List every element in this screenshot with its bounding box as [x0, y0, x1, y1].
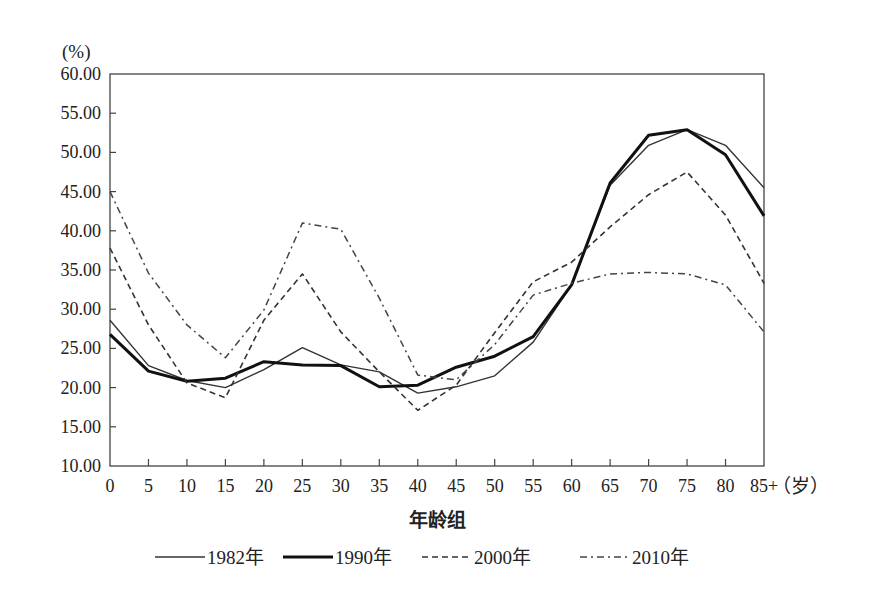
y-tick-label: 40.00 — [61, 221, 102, 241]
y-tick-label: 60.00 — [61, 64, 102, 84]
y-tick-label: 20.00 — [61, 378, 102, 398]
x-tick-label: 25 — [293, 476, 311, 496]
x-axis-unit: （岁） — [772, 476, 829, 497]
legend-label: 2010年 — [632, 547, 689, 568]
y-axis-unit: (%) — [62, 41, 90, 63]
y-tick-label: 10.00 — [61, 456, 102, 476]
x-tick-label: 35 — [370, 476, 388, 496]
x-tick-label: 75 — [678, 476, 696, 496]
legend-label: 2000年 — [474, 547, 531, 568]
x-tick-label: 70 — [640, 476, 658, 496]
x-tick-label: 60 — [563, 476, 581, 496]
x-tick-label: 15 — [216, 476, 234, 496]
x-tick-label: 80 — [717, 476, 735, 496]
y-tick-label: 50.00 — [61, 142, 102, 162]
x-axis-title: 年龄组 — [409, 509, 466, 531]
line-chart: (%) 10.0015.0020.0025.0030.0035.0040.004… — [0, 0, 873, 603]
x-tick-label: 50 — [486, 476, 504, 496]
x-tick-label: 45 — [447, 476, 465, 496]
x-tick-label: 65 — [601, 476, 619, 496]
y-tick-label: 45.00 — [61, 182, 102, 202]
legend-label: 1982年 — [207, 547, 264, 568]
series-line-1982 — [110, 130, 764, 393]
series-line-2010 — [110, 192, 764, 380]
y-axis: 10.0015.0020.0025.0030.0035.0040.0045.00… — [61, 64, 117, 476]
legend-label: 1990年 — [335, 547, 392, 568]
y-tick-label: 25.00 — [61, 338, 102, 358]
y-tick-label: 30.00 — [61, 299, 102, 319]
x-tick-label: 0 — [106, 476, 115, 496]
y-tick-label: 15.00 — [61, 417, 102, 437]
legend: 1982年1990年2000年2010年 — [155, 547, 689, 568]
x-tick-label: 40 — [409, 476, 427, 496]
x-tick-label: 10 — [178, 476, 196, 496]
y-tick-label: 55.00 — [61, 103, 102, 123]
series-line-1990 — [110, 130, 764, 387]
series-layer — [110, 130, 764, 411]
x-axis: 0510152025303540455055606570758085+ — [106, 459, 779, 496]
x-tick-label: 30 — [332, 476, 350, 496]
x-tick-label: 5 — [144, 476, 153, 496]
x-tick-label: 20 — [255, 476, 273, 496]
y-tick-label: 35.00 — [61, 260, 102, 280]
x-tick-label: 55 — [524, 476, 542, 496]
